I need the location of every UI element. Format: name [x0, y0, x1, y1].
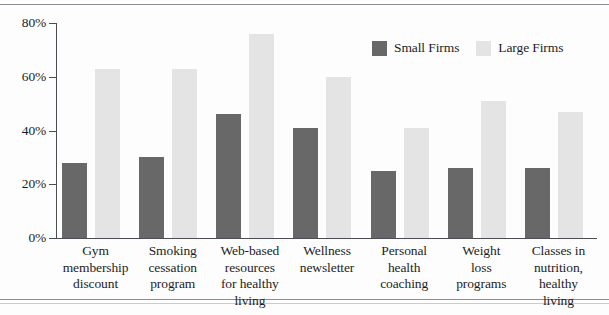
- bar-large-firms: [95, 69, 120, 238]
- x-axis-category-label-line: resources: [207, 260, 292, 277]
- x-axis-category-label-line: Personal: [362, 243, 447, 260]
- x-axis-category-label: Personalhealthcoaching: [362, 243, 447, 293]
- x-axis-category-label: Smokingcessationprogram: [130, 243, 215, 293]
- legend-entry: Large Firms: [476, 40, 563, 56]
- x-axis-category-label-line: loss: [439, 260, 524, 277]
- legend-entry: Small Firms: [372, 40, 459, 56]
- y-axis-tick-label: 0%: [0, 230, 46, 246]
- y-axis-tick-label: 60%: [0, 69, 46, 85]
- bar-large-firms: [249, 34, 274, 238]
- x-axis-category-label-line: newsletter: [284, 260, 369, 277]
- bar-large-firms: [172, 69, 197, 238]
- bar-small-firms: [525, 168, 550, 238]
- x-axis-category-label-line: membership: [53, 260, 138, 277]
- y-axis-tick-mark: [49, 77, 57, 78]
- y-axis-tick-mark: [49, 184, 57, 185]
- bar-chart-figure: 0%20%40%60%80% GymmembershipdiscountSmok…: [0, 0, 609, 315]
- x-axis-category-label: Weightlossprograms: [439, 243, 524, 293]
- x-axis-category-label-line: Gym: [53, 243, 138, 260]
- x-axis-category-label-line: living: [207, 293, 292, 310]
- x-axis-category-label: Wellnessnewsletter: [284, 243, 369, 276]
- x-axis-category-label-line: Weight: [439, 243, 524, 260]
- x-axis-category-label-line: Classes in: [516, 243, 601, 260]
- y-axis-tick-label: 20%: [0, 176, 46, 192]
- bar-large-firms: [326, 77, 351, 238]
- chart-legend: Small FirmsLarge Firms: [372, 40, 563, 56]
- y-axis-tick-mark: [49, 238, 57, 239]
- x-axis-category-label-line: nutrition,: [516, 260, 601, 277]
- bar-group: [288, 23, 365, 238]
- bar-group: [134, 23, 211, 238]
- x-axis-category-label-line: program: [130, 276, 215, 293]
- figure-top-rule: [0, 4, 609, 5]
- bar-small-firms: [62, 163, 87, 238]
- bar-small-firms: [371, 171, 396, 238]
- x-axis-line: [56, 238, 597, 239]
- y-axis-tick-label: 40%: [0, 123, 46, 139]
- x-axis-category-label: Classes innutrition,healthyliving: [516, 243, 601, 309]
- bar-small-firms: [216, 114, 241, 238]
- x-axis-category-label-line: discount: [53, 276, 138, 293]
- x-axis-category-label-line: Wellness: [284, 243, 369, 260]
- bar-large-firms: [558, 112, 583, 238]
- legend-swatch-icon: [372, 41, 387, 56]
- x-axis-category-label-line: for healthy: [207, 276, 292, 293]
- bar-small-firms: [293, 128, 318, 238]
- x-axis-category-label-line: programs: [439, 276, 524, 293]
- x-axis-category-label-line: Smoking: [130, 243, 215, 260]
- y-axis-tick-mark: [49, 23, 57, 24]
- bar-group: [57, 23, 134, 238]
- x-axis-category-label-line: health: [362, 260, 447, 277]
- x-axis-category-label-line: healthy: [516, 276, 601, 293]
- legend-label: Large Firms: [498, 40, 563, 56]
- bar-group: [211, 23, 288, 238]
- y-axis-tick-label: 80%: [0, 15, 46, 31]
- legend-swatch-icon: [476, 41, 491, 56]
- x-axis-category-label-line: cessation: [130, 260, 215, 277]
- x-axis-category-label-line: Web-based: [207, 243, 292, 260]
- x-axis-category-label-line: living: [516, 293, 601, 310]
- bar-small-firms: [448, 168, 473, 238]
- x-axis-category-label: Web-basedresourcesfor healthyliving: [207, 243, 292, 309]
- bar-large-firms: [404, 128, 429, 238]
- x-axis-category-label-line: coaching: [362, 276, 447, 293]
- legend-label: Small Firms: [394, 40, 459, 56]
- bar-large-firms: [481, 101, 506, 238]
- y-axis-tick-mark: [49, 131, 57, 132]
- x-axis-category-label: Gymmembershipdiscount: [53, 243, 138, 293]
- bar-small-firms: [139, 157, 164, 238]
